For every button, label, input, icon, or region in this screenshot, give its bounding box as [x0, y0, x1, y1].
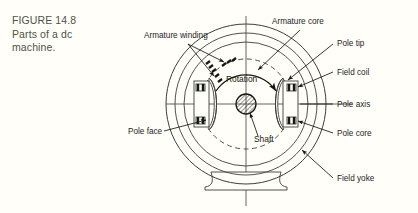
leader-shaft — [250, 113, 258, 136]
label-field-coil: Field coil — [337, 68, 369, 77]
label-armature-core: Armature core — [272, 17, 324, 26]
label-armature-winding: Armature winding — [144, 31, 208, 40]
label-pole-face: Pole face — [128, 127, 163, 136]
figure-page: FIGURE 14.8 Parts of a dc machine. — [0, 0, 418, 213]
leader-field-yoke — [302, 150, 333, 178]
dc-machine-diagram: Armature winding Armature core Pole tip … — [0, 0, 418, 213]
label-pole-axis: Pole axis — [337, 100, 370, 109]
label-pole-tip: Pole tip — [337, 39, 365, 48]
label-rotation: Rotation — [226, 74, 258, 84]
machine-body — [166, 16, 352, 206]
leader-armature-winding-a — [188, 44, 224, 62]
label-field-yoke: Field yoke — [337, 174, 375, 183]
shaft-circle — [236, 94, 256, 114]
label-pole-core: Pole core — [337, 129, 372, 138]
label-shaft: Shaft — [254, 134, 274, 144]
